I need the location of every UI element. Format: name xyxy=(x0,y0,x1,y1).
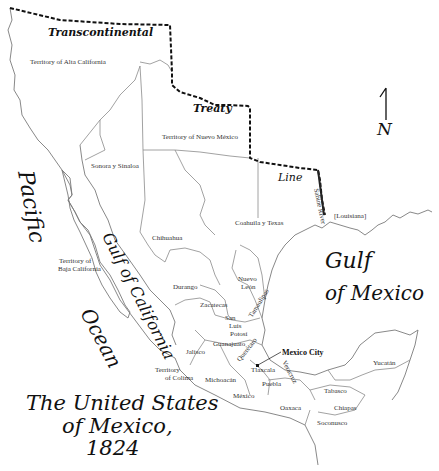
state-borders xyxy=(80,60,410,425)
region-tlaxcala: Tlaxcala xyxy=(251,366,276,374)
title-line-3: 1824 xyxy=(86,436,139,460)
region-mexico-city: Mexico City xyxy=(282,348,324,357)
map-canvas: N Transcontinental Treaty Line Sabine Ri… xyxy=(0,0,439,471)
region-louisiana: [Louisiana] xyxy=(334,212,366,220)
region-mexico: México xyxy=(233,392,255,400)
treaty-word-treaty: Treaty xyxy=(193,102,233,115)
region-slp-2: Luis xyxy=(229,322,242,330)
region-coahuila: Coahuila y Texas xyxy=(235,219,284,227)
region-slp-3: Potosí xyxy=(230,330,248,338)
region-soconusco: Soconusco xyxy=(317,419,348,427)
region-nuevo-leon-2: León xyxy=(241,283,256,291)
mexico-city-leader-line xyxy=(258,352,281,365)
map-title: The United States of Mexico, 1824 xyxy=(26,391,219,460)
title-line-1: The United States xyxy=(26,391,219,415)
region-durango: Durango xyxy=(173,283,198,291)
region-guanajuato: Guanajuato xyxy=(213,340,246,348)
region-sonora: Sonora y Sinaloa xyxy=(91,162,140,170)
compass-rose: N xyxy=(376,88,393,139)
region-tamaulipas: Tamaulipas xyxy=(247,287,271,319)
region-nuevo-leon-1: Nuevo xyxy=(238,275,257,283)
gulf-of-mexico-label-1: Gulf xyxy=(325,248,376,273)
region-baja-line2: Baja California xyxy=(58,265,102,273)
treaty-word-transcontinental: Transcontinental xyxy=(48,26,153,39)
region-michoacan: Michoacán xyxy=(205,376,237,384)
region-colima-2: of Colima xyxy=(165,374,194,382)
region-slp-1: San xyxy=(225,314,236,322)
region-yucatan: Yucatán xyxy=(373,359,396,367)
north-label: N xyxy=(376,119,393,139)
region-puebla: Puebla xyxy=(262,380,282,388)
region-veracruz: Veracruz xyxy=(280,359,299,385)
region-chihuahua: Chihuahua xyxy=(152,234,183,242)
region-alta-california: Territory of Alta California xyxy=(30,58,107,66)
gulf-of-mexico-label-2: of Mexico xyxy=(325,281,424,305)
region-oaxaca: Oaxaca xyxy=(280,404,302,412)
treaty-word-line: Line xyxy=(277,171,303,184)
north-arrow-icon xyxy=(380,88,386,120)
region-tabasco: Tabasco xyxy=(324,387,347,395)
region-nuevo-mexico: Territory of Nuevo México xyxy=(162,133,238,141)
region-chiapas: Chiapas xyxy=(334,404,357,412)
pacific-label: Pacific xyxy=(13,168,51,246)
title-line-2: of Mexico, xyxy=(62,414,173,438)
region-jalisco: Jalisco xyxy=(186,348,206,356)
region-zacatecas: Zacatecas xyxy=(200,301,228,309)
region-colima-1: Territory xyxy=(155,366,180,374)
river-label: Sabine River xyxy=(312,188,328,226)
region-baja-line1: Territory of xyxy=(59,257,92,265)
ocean-label: Ocean xyxy=(76,304,127,372)
